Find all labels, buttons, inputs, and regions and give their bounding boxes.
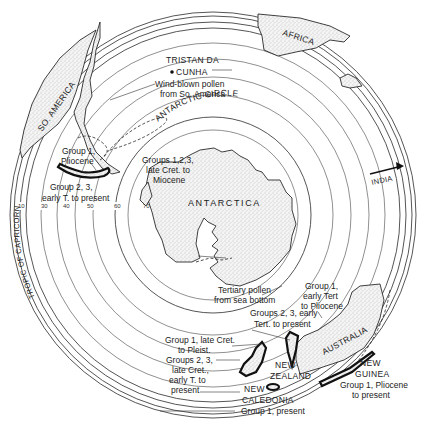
india-arrow — [370, 162, 404, 174]
sa-group23-label-2: early T. to present — [42, 193, 110, 203]
latitude-labels: 10 30 40 50 60 70 — [17, 202, 150, 210]
new-zealand-label-1: NEW — [275, 360, 296, 370]
new-caledonia-label-1: NEW — [244, 384, 265, 394]
ant-groups-label-3: Miocene — [153, 175, 185, 185]
ng-group1-label-2: to present — [352, 390, 390, 400]
tertiary-label-1: Tertiary pollen — [218, 285, 271, 295]
tristan-da-cunha-dot — [170, 70, 174, 74]
lat-50: 50 — [87, 203, 94, 209]
india-label: INDIA — [371, 174, 394, 187]
nz-group23-label-3: early T. to — [169, 375, 206, 385]
tristan-label-1: TRISTAN DA — [166, 55, 219, 65]
nz-group23-label-2: late Cret., — [172, 365, 209, 375]
ant-groups-label-1: Groups 1,2,3, — [142, 155, 194, 165]
sa-group23-label-1: Group 2, 3, — [50, 182, 93, 192]
ng-group1-label-1: Group 1, Pliocene — [340, 380, 408, 390]
new-caledonia-label-2: CALEDONIA — [242, 395, 294, 405]
nc-group1-label: Group 1, present — [241, 406, 305, 416]
wind-pollen-label-2: from So. America — [160, 89, 225, 99]
aus-group23-label-1: Groups 2, 3, early — [250, 308, 318, 318]
new-caledonia-landmass — [267, 384, 279, 390]
aus-group23-label-2: Tert. to present — [254, 319, 311, 329]
new-zealand-label-2: ZEALAND — [270, 371, 311, 381]
new-guinea-label-2: GUINEA — [355, 369, 389, 379]
tropic-of-capricorn-label: TROPIC OF CAPRICORN — [12, 205, 37, 300]
antarctica-label: ANTARCTICA — [188, 198, 261, 208]
tertiary-label-2: from sea bottom — [214, 295, 275, 305]
nz-group23-label-1: Groups 2, 3, — [166, 355, 213, 365]
aus-group1-label-2: early Tert — [303, 291, 338, 301]
new-guinea-label-1: NEW — [360, 358, 381, 368]
southern-hemisphere-map: 10 30 40 50 60 70 ANTARCTICA SO. AMERICA… — [0, 0, 428, 426]
tristan-label-2: CUNHA — [176, 67, 208, 77]
lat-40: 40 — [63, 203, 70, 209]
aus-group1-label-1: Group 1, — [305, 281, 338, 291]
madagascar-landmass — [340, 74, 362, 88]
sa-group1-label-1: Group 1, — [62, 146, 95, 156]
lat-30: 30 — [41, 203, 48, 209]
nz-group23-label-4: present — [171, 385, 200, 395]
nz-group1-label-1: Group 1, late Cret. — [165, 335, 235, 345]
wind-pollen-label-1: Wind-blown pollen — [155, 79, 225, 89]
sa-group1-label-2: Pliocene — [61, 156, 94, 166]
lat-60: 60 — [114, 203, 121, 209]
nz-group1-label-2: to Pleist. — [178, 345, 211, 355]
ant-groups-label-2: late Cret. to — [146, 165, 190, 175]
